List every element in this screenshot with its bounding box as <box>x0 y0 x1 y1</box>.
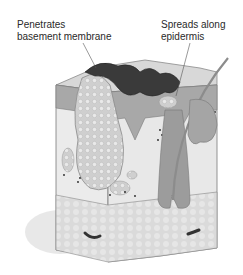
label-line: epidermis <box>161 31 226 43</box>
subcutaneous-layer <box>56 192 217 262</box>
label-spreads-along-epidermis: Spreads along epidermis <box>161 19 226 43</box>
label-line: Spreads along <box>161 19 226 31</box>
label-line: basement membrane <box>17 31 112 43</box>
label-penetrates-basement-membrane: Penetrates basement membrane <box>17 19 112 43</box>
label-line: Penetrates <box>17 19 112 31</box>
leader-line-penetrates <box>83 43 96 68</box>
